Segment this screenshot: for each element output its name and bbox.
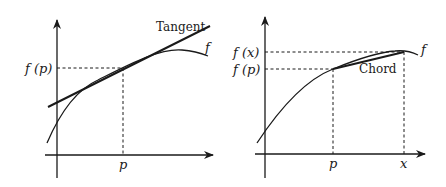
right-f-label: f (420, 42, 428, 57)
right-fx-label: f (x) (232, 45, 259, 60)
left-p-label: p (119, 157, 128, 172)
tangent-chord-diagram: f (p) p Tangent f f (x) f (p) p x Chord … (0, 0, 446, 187)
tangent-line (48, 26, 210, 107)
right-fp-label: f (p) (232, 62, 260, 77)
left-f-label: f (204, 40, 212, 55)
right-p-label: p (329, 156, 338, 171)
tangent-label: Tangent (156, 20, 205, 34)
left-fp-label: f (p) (24, 61, 52, 76)
chord-label: Chord (359, 62, 397, 76)
right-x-label: x (400, 156, 408, 171)
right-panel-chord: f (x) f (p) p x Chord f (232, 17, 428, 178)
left-panel-tangent: f (p) p Tangent f (24, 20, 213, 178)
